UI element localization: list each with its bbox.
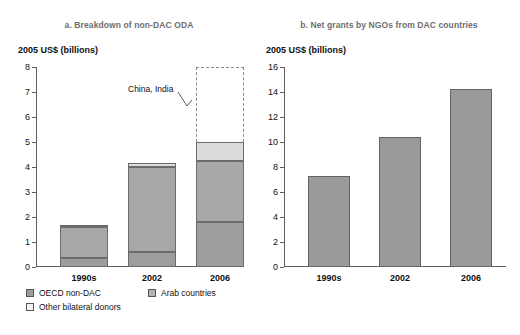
bar-1990s-stacked[interactable] [60, 225, 108, 268]
panel-a-title: a. Breakdown of non-DAC ODA [0, 20, 258, 30]
legend-item-oecd-non-dac[interactable]: OECD non-DAC [26, 288, 148, 298]
x-axis-label-2006: 2006 [210, 273, 230, 283]
bar-2006-ngo-grants[interactable] [450, 89, 492, 267]
legend-row-2: Other bilateral donors [26, 300, 256, 314]
bar-segment-oecd-non-dac[interactable] [60, 258, 108, 267]
bar-segment-arab-countries[interactable] [196, 161, 244, 222]
bar-2002-stacked[interactable] [128, 163, 176, 268]
bar-2002-ngo-grants[interactable] [379, 137, 421, 267]
legend-swatch-oecd-non-dac [26, 289, 34, 297]
panel-b-title: b. Net grants by NGOs from DAC countries [258, 20, 520, 30]
legend-item-arab-countries[interactable]: Arab countries [148, 288, 216, 298]
bar-segment-other-bilateral-donors[interactable] [196, 142, 244, 161]
x-axis-label-2002: 2002 [390, 273, 410, 283]
china-india-leader-line [178, 92, 208, 114]
bar-segment-oecd-non-dac[interactable] [196, 222, 244, 267]
panel-a-y-axis-line [36, 67, 37, 267]
x-axis-label-2006: 2006 [461, 273, 481, 283]
legend-row-1: OECD non-DAC Arab countries [26, 286, 256, 300]
x-axis-label-1990s: 1990s [71, 273, 96, 283]
bar-2006-stacked[interactable] [196, 142, 244, 267]
panel-b-y-axis-line [284, 67, 285, 267]
chart-panel-a: a. Breakdown of non-DAC ODA 2005 US$ (bi… [0, 0, 258, 335]
bar-1990s-ngo-grants[interactable] [308, 176, 350, 267]
panel-b-plot-area: 16 14 12 10 8 6 4 2 0 1990s 2002 2006 [284, 67, 499, 267]
panel-a-y-axis-label: 2005 US$ (billions) [18, 45, 98, 55]
bar-segment-other-bilateral-donors[interactable] [128, 163, 176, 168]
legend-item-other-bilateral-donors[interactable]: Other bilateral donors [26, 302, 148, 312]
panel-b-y-axis-label: 2005 US$ (billions) [266, 45, 346, 55]
legend-label-other-bilateral-donors: Other bilateral donors [39, 302, 121, 312]
panel-a-legend: OECD non-DAC Arab countries Other bilate… [26, 286, 256, 314]
figure-container: a. Breakdown of non-DAC ODA 2005 US$ (bi… [0, 0, 520, 335]
x-axis-label-1990s: 1990s [316, 273, 341, 283]
china-india-annotation-label: China, India [128, 84, 173, 94]
bar-segment-other-bilateral-donors[interactable] [60, 225, 108, 228]
x-axis-label-2002: 2002 [142, 273, 162, 283]
legend-label-arab-countries: Arab countries [161, 288, 216, 298]
bar-segment-oecd-non-dac[interactable] [128, 252, 176, 267]
chart-panel-b: b. Net grants by NGOs from DAC countries… [258, 0, 520, 335]
legend-swatch-other-bilateral-donors [26, 303, 34, 311]
legend-swatch-arab-countries [148, 289, 156, 297]
bar-segment-arab-countries[interactable] [60, 227, 108, 258]
legend-label-oecd-non-dac: OECD non-DAC [39, 288, 101, 298]
bar-segment-arab-countries[interactable] [128, 167, 176, 252]
